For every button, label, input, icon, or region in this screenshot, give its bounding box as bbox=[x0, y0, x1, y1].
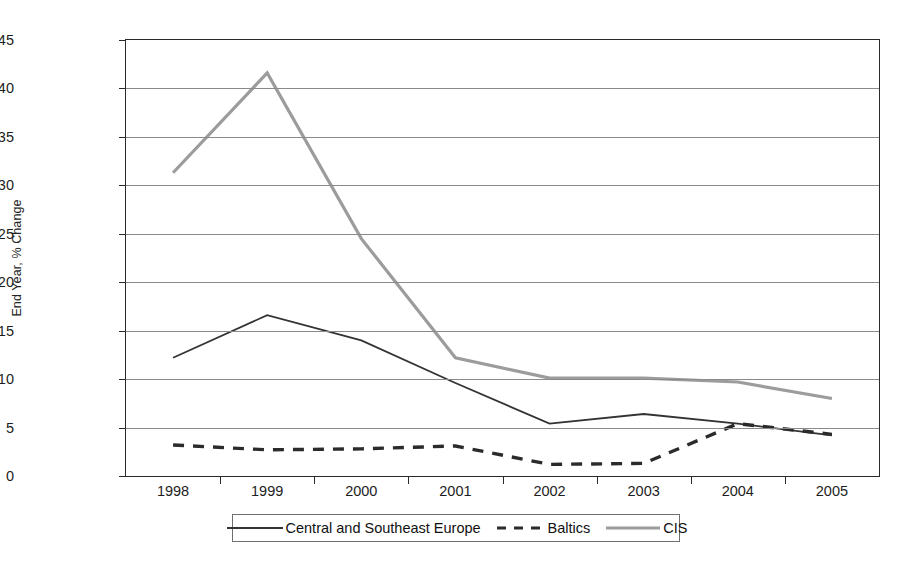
x-axis-tick-label: 1999 bbox=[227, 483, 307, 499]
gridline bbox=[126, 88, 879, 89]
y-axis-tick-label: 5 bbox=[0, 420, 14, 436]
y-axis-tick-label: 40 bbox=[0, 80, 14, 96]
gridline bbox=[126, 137, 879, 138]
series-line bbox=[173, 424, 832, 465]
legend-label: Central and Southeast Europe bbox=[285, 520, 481, 536]
gridline bbox=[126, 185, 879, 186]
gridline bbox=[126, 379, 879, 380]
solid-dark-line-swatch-icon bbox=[225, 521, 285, 535]
x-axis-tick-mark bbox=[220, 477, 221, 484]
y-axis-tick-label: 10 bbox=[0, 371, 14, 387]
dashed-dark-line-swatch-icon bbox=[495, 521, 547, 535]
y-axis-tick-label: 0 bbox=[0, 468, 14, 484]
x-axis-tick-mark bbox=[597, 477, 598, 484]
x-axis-tick-mark bbox=[314, 477, 315, 484]
legend-label: Baltics bbox=[547, 520, 591, 536]
series-group bbox=[126, 40, 879, 476]
legend-label: CIS bbox=[662, 520, 687, 536]
chart-legend: Central and Southeast Europe Baltics CIS bbox=[232, 514, 680, 542]
x-axis-tick-mark bbox=[503, 477, 504, 484]
solid-grey-line-swatch-icon bbox=[604, 521, 662, 535]
series-line bbox=[173, 315, 832, 435]
y-axis-tick-label: 45 bbox=[0, 32, 14, 48]
legend-entry-central-and-southeast-europe: Central and Southeast Europe bbox=[225, 520, 481, 536]
x-axis-tick-mark bbox=[408, 477, 409, 484]
gridline bbox=[126, 428, 879, 429]
y-axis-title: End Year, % Change bbox=[8, 39, 26, 477]
y-axis-tick-label: 25 bbox=[0, 226, 14, 242]
gridline bbox=[126, 234, 879, 235]
x-axis-tick-label: 2001 bbox=[415, 483, 495, 499]
x-axis-tick-label: 2005 bbox=[792, 483, 872, 499]
plot-area bbox=[125, 39, 880, 477]
y-axis-tick-label: 15 bbox=[0, 323, 14, 339]
gridline bbox=[126, 331, 879, 332]
y-axis-tick-label: 20 bbox=[0, 274, 14, 290]
x-axis-tick-label: 2000 bbox=[321, 483, 401, 499]
x-axis-tick-label: 2002 bbox=[510, 483, 590, 499]
x-axis-tick-label: 1998 bbox=[133, 483, 213, 499]
y-axis-tick-label: 35 bbox=[0, 129, 14, 145]
line-chart: End Year, % Change 051015202530354045 19… bbox=[0, 0, 900, 562]
x-axis-tick-label: 2004 bbox=[698, 483, 778, 499]
x-axis-tick-label: 2003 bbox=[604, 483, 684, 499]
x-axis-tick-mark bbox=[785, 477, 786, 484]
x-axis-tick-mark bbox=[691, 477, 692, 484]
legend-entry-baltics: Baltics bbox=[495, 520, 591, 536]
y-axis-tick-label: 30 bbox=[0, 177, 14, 193]
series-line bbox=[173, 73, 832, 399]
legend-entry-cis: CIS bbox=[604, 520, 687, 536]
gridline bbox=[126, 282, 879, 283]
